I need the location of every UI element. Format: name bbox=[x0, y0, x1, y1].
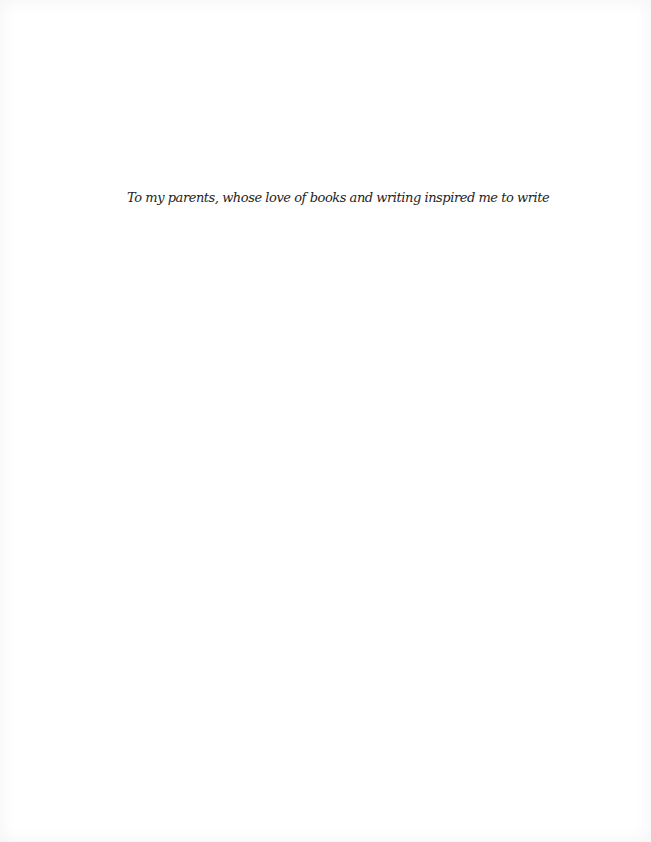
dedication-text: To my parents, whose love of books and w… bbox=[127, 188, 527, 208]
dedication-page: To my parents, whose love of books and w… bbox=[0, 0, 651, 842]
